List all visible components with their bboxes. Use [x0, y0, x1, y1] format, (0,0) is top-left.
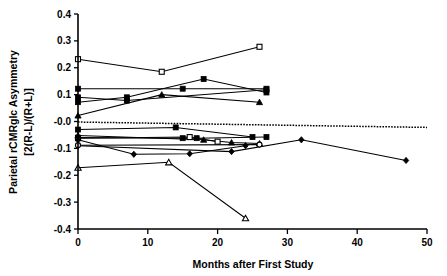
data-series-group — [78, 47, 406, 218]
data-point-subject-4-1 — [124, 98, 129, 103]
data-point-subject-11-1 — [131, 151, 136, 157]
series-line-subject-1 — [78, 47, 259, 72]
y-tick-label: -0.4 — [54, 224, 72, 235]
x-tick-label: 40 — [352, 237, 364, 248]
series-line-subject-6 — [78, 127, 253, 137]
y-axis-ticks: 0.40.30.20.1-0.0-0.1-0.2-0.3-0.4 — [54, 9, 78, 235]
x-tick-label: 10 — [142, 237, 154, 248]
scatter-line-chart: 0.40.30.20.1-0.0-0.1-0.2-0.3-0.4 0102030… — [0, 0, 447, 276]
x-tick-label: 50 — [421, 237, 433, 248]
data-point-subject-10-1 — [229, 149, 234, 155]
data-point-subject-2-2 — [201, 77, 206, 82]
data-point-subject-6-1 — [173, 125, 178, 130]
data-point-subject-13-1 — [166, 159, 172, 165]
data-point-subject-3-1 — [180, 86, 185, 91]
y-tick-label: -0.0 — [54, 116, 72, 127]
series-line-subject-13 — [78, 162, 246, 218]
data-point-subject-10-3 — [403, 157, 408, 163]
data-point-subject-4-2 — [264, 87, 269, 92]
x-axis-ticks: 01020304050 — [75, 229, 433, 248]
y-axis-title-line1: Parietal rCMRglc Asymmetry — [7, 50, 19, 194]
x-tick-label: 20 — [212, 237, 224, 248]
y-tick-label: 0.1 — [57, 89, 71, 100]
data-point-subject-6-2 — [250, 135, 255, 140]
x-tick-label: 0 — [75, 237, 81, 248]
chart-figure: 0.40.30.20.1-0.0-0.1-0.2-0.3-0.4 0102030… — [0, 0, 447, 276]
data-point-subject-12-1 — [257, 142, 262, 147]
trend-line — [78, 122, 427, 127]
data-point-subject-10-2 — [299, 137, 304, 143]
data-point-subject-1-1 — [159, 69, 164, 74]
y-tick-label: -0.2 — [54, 170, 72, 181]
y-tick-label: 0.3 — [57, 35, 71, 46]
data-point-subject-7-2 — [194, 136, 199, 141]
data-point-subject-7-3 — [264, 135, 269, 140]
y-axis-title-line2: [2(R-L)/(R+L)] — [22, 88, 34, 155]
data-markers-group — [75, 44, 409, 220]
data-point-subject-8-1 — [187, 135, 192, 140]
regression-trend-line — [78, 122, 427, 127]
axes-group — [78, 14, 427, 229]
y-tick-label: -0.3 — [54, 197, 72, 208]
data-point-subject-1-2 — [257, 44, 262, 49]
x-tick-label: 30 — [282, 237, 294, 248]
data-point-subject-7-1 — [180, 136, 185, 141]
data-point-subject-8-2 — [215, 139, 220, 144]
data-point-subject-11-2 — [187, 151, 192, 157]
y-tick-label: 0.4 — [57, 9, 71, 20]
y-tick-label: 0.2 — [57, 62, 71, 73]
y-tick-label: -0.1 — [54, 143, 72, 154]
x-axis-title: Months after First Study — [193, 258, 314, 270]
